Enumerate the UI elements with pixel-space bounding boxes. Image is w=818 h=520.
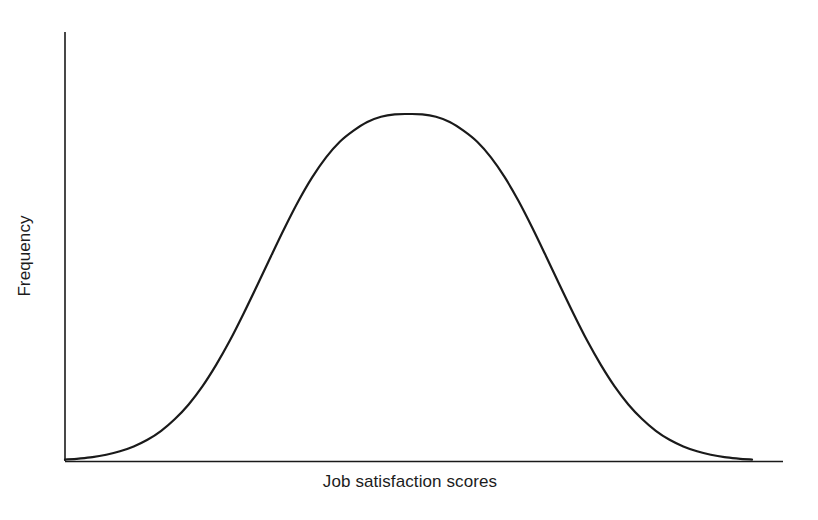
y-axis-label: Frequency [0,0,66,520]
y-axis-label-text: Frequency [15,215,35,296]
x-axis-label: Job satisfaction scores [65,472,755,492]
chart-plot-area [0,0,818,520]
chart-figure: Frequency Job satisfaction scores [0,0,818,520]
x-axis-label-text: Job satisfaction scores [323,472,497,491]
distribution-curve [65,114,752,460]
